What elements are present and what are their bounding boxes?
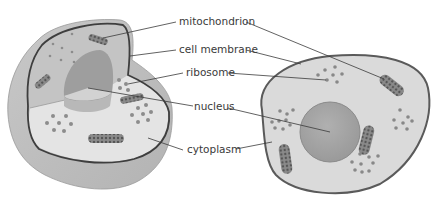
label-cell-membrane: cell membrane — [179, 43, 258, 55]
animal-cell-3d — [8, 20, 172, 190]
labels: mitochondrion cell membrane ribosome nuc… — [179, 15, 258, 155]
cell-diagram: mitochondrion cell membrane ribosome nuc… — [0, 0, 440, 208]
label-nucleus: nucleus — [194, 100, 235, 112]
label-cytoplasm: cytoplasm — [187, 143, 241, 155]
label-ribosome: ribosome — [186, 66, 235, 78]
animal-cell-2d — [261, 55, 429, 193]
label-mitochondrion: mitochondrion — [179, 15, 255, 27]
